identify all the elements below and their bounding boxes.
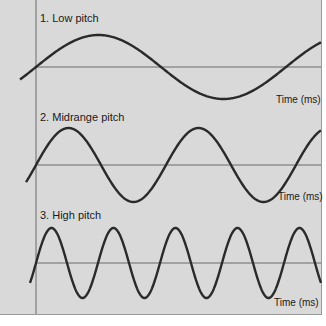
- time-axis-label-mid: Time (ms): [278, 191, 323, 202]
- wave-plot: [0, 0, 326, 326]
- time-axis-label-low: Time (ms): [276, 94, 321, 105]
- label-midrange-pitch: 2. Midrange pitch: [40, 111, 124, 123]
- label-low-pitch: 1. Low pitch: [40, 12, 99, 24]
- time-axis-label-high: Time (ms): [274, 297, 319, 308]
- label-high-pitch: 3. High pitch: [40, 209, 101, 221]
